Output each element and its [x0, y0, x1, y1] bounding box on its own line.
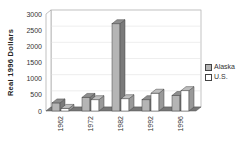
y-axis-label: Real 1996 Dollars [6, 29, 15, 96]
bar-us-1972 [91, 96, 104, 111]
legend: Alaska U.S. [205, 62, 235, 82]
legend-label-alaska: Alaska [214, 62, 235, 72]
y-tick-label: 0 [38, 108, 42, 115]
legend-item-us: U.S. [205, 72, 235, 82]
x-tick-label: 1982 [117, 116, 124, 132]
legend-swatch-us [205, 74, 212, 81]
legend-swatch-alaska [205, 64, 212, 71]
x-tick-label: 1996 [177, 116, 184, 132]
y-tick-label: 2500 [26, 27, 42, 34]
y-tick-label: 1000 [26, 75, 42, 82]
y-tick-label: 3000 [26, 11, 42, 18]
x-tick-label: 1962 [57, 116, 64, 132]
x-tick-label: 1972 [87, 116, 94, 132]
bar-us-1992 [151, 89, 164, 111]
bar-us-1996 [181, 87, 194, 111]
legend-item-alaska: Alaska [205, 62, 235, 72]
legend-label-us: U.S. [214, 72, 228, 82]
bar-us-1982 [121, 95, 134, 111]
y-tick-label: 500 [30, 91, 42, 98]
plot-left-wall [46, 10, 51, 111]
y-tick-label: 1500 [26, 59, 42, 66]
y-tick-label: 2000 [26, 43, 42, 50]
x-tick-label: 1992 [147, 116, 154, 132]
